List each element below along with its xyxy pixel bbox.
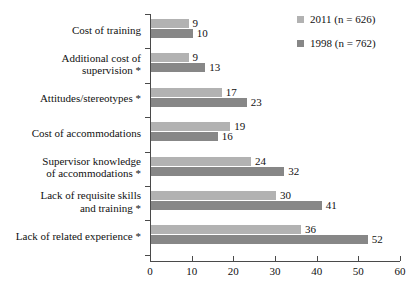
x-tick-label-20: 20	[228, 266, 239, 277]
bar	[151, 201, 322, 210]
x-axis-line	[150, 261, 400, 262]
category-label-line: Cost of training	[9, 24, 141, 37]
bar-value-label: 10	[197, 29, 208, 38]
x-tick-label-10: 10	[186, 266, 197, 277]
category-label: Attitudes/stereotypes *	[9, 92, 141, 105]
bar-chart: 0102030405060 Cost of training910Additio…	[0, 0, 415, 294]
legend-entry: 1998 (n = 762)	[297, 38, 376, 49]
bar-value-label: 19	[234, 122, 245, 131]
category-label: Supervisor knowledgeof accommodations *	[9, 155, 141, 180]
x-tick-label-60: 60	[395, 266, 406, 277]
bar-value-label: 23	[251, 98, 262, 107]
bar-value-label: 36	[305, 225, 316, 234]
bar-value-label: 32	[288, 167, 299, 176]
bar	[151, 122, 230, 131]
bar-group: Additional cost ofsupervision *913	[0, 48, 415, 82]
bar-value-label: 16	[222, 132, 233, 141]
bar	[151, 88, 222, 97]
category-label: Cost of training	[9, 24, 141, 37]
bar	[151, 53, 189, 62]
category-label-line: and training *	[9, 202, 141, 215]
bar	[151, 235, 368, 244]
category-label-line: of accommodations *	[9, 167, 141, 180]
bar-group: Lack of related experience *3652	[0, 220, 415, 254]
legend-swatch-icon	[297, 16, 304, 23]
x-tick-label-30: 30	[270, 266, 281, 277]
bar	[151, 167, 284, 176]
bar	[151, 98, 247, 107]
category-label: Cost of accommodations	[9, 127, 141, 140]
category-label: Additional cost ofsupervision *	[9, 52, 141, 77]
category-label-line: Attitudes/stereotypes *	[9, 92, 141, 105]
legend-entry: 2011 (n = 626)	[297, 14, 376, 25]
chart-legend: 2011 (n = 626)1998 (n = 762)	[297, 14, 376, 49]
x-tick-0	[150, 256, 151, 261]
legend-label: 2011 (n = 626)	[310, 14, 375, 25]
bar	[151, 225, 301, 234]
x-tick-40	[317, 256, 318, 261]
bar-group: Cost of accommodations1916	[0, 117, 415, 151]
bar	[151, 63, 205, 72]
bar-value-label: 41	[326, 201, 337, 210]
bar	[151, 191, 276, 200]
bar-value-label: 24	[255, 157, 266, 166]
category-label-line: Additional cost of	[9, 52, 141, 65]
legend-swatch-icon	[297, 40, 304, 47]
category-label-line: Supervisor knowledge	[9, 155, 141, 168]
bar-value-label: 52	[372, 235, 383, 244]
bar-group: Lack of requisite skillsand training *30…	[0, 186, 415, 220]
x-tick-50	[358, 256, 359, 261]
bar-value-label: 30	[280, 191, 291, 200]
category-label-line: Cost of accommodations	[9, 127, 141, 140]
x-tick-label-50: 50	[353, 266, 364, 277]
bar	[151, 29, 193, 38]
bar	[151, 132, 218, 141]
x-tick-30	[275, 256, 276, 261]
bar	[151, 157, 251, 166]
bar-value-label: 9	[193, 53, 199, 62]
x-tick-10	[192, 256, 193, 261]
category-label-line: supervision *	[9, 64, 141, 77]
bar	[151, 19, 189, 28]
bar-group: Attitudes/stereotypes *1723	[0, 83, 415, 117]
category-label-line: Lack of related experience *	[9, 230, 141, 243]
bar-group: Supervisor knowledgeof accommodations *2…	[0, 152, 415, 186]
x-tick-label-40: 40	[311, 266, 322, 277]
bar-value-label: 17	[226, 88, 237, 97]
x-tick-label-0: 0	[147, 266, 153, 277]
y-tick-7	[145, 255, 150, 256]
legend-label: 1998 (n = 762)	[310, 38, 376, 49]
category-label-line: Lack of requisite skills	[9, 189, 141, 202]
category-label: Lack of requisite skillsand training *	[9, 189, 141, 214]
x-tick-20	[233, 256, 234, 261]
category-label: Lack of related experience *	[9, 230, 141, 243]
bar-value-label: 13	[209, 63, 220, 72]
x-tick-60	[400, 256, 401, 261]
